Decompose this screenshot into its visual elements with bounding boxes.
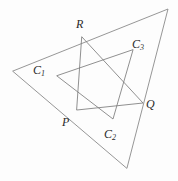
vertex-label-P: P	[62, 116, 69, 128]
outer-triangle	[13, 9, 168, 168]
vertex-label-C3: C3	[132, 38, 144, 50]
vertex-label-C2: C2	[104, 128, 116, 140]
geometry-figure: R C1 C3 Q P C2	[0, 0, 178, 181]
figure-canvas	[0, 0, 178, 181]
vertex-label-Q: Q	[146, 98, 155, 110]
vertex-label-R: R	[76, 18, 83, 30]
triangle-c1c2c3	[57, 50, 133, 119]
vertex-label-C1: C1	[33, 64, 45, 76]
